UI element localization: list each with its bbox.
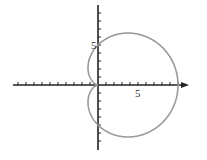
y-tick-label-5: 5	[91, 40, 97, 51]
cardioid-plot	[0, 0, 207, 160]
x-axis-arrow-icon	[181, 82, 189, 88]
x-tick-label-5: 5	[135, 88, 141, 99]
